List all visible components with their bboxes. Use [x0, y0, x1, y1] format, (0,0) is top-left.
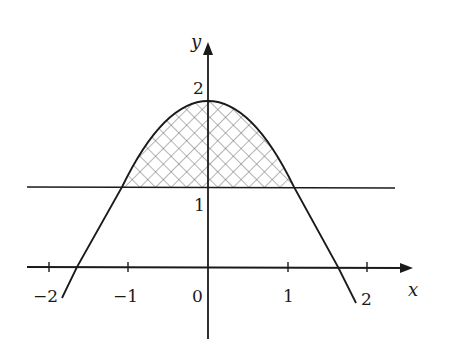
- y-axis-label: y: [190, 31, 202, 52]
- y-axis-arrow-icon: [203, 42, 213, 55]
- x-tick-label-neg2: −2: [33, 286, 58, 306]
- shaded-region: [110, 95, 310, 190]
- x-tick-label-2: 2: [361, 289, 372, 309]
- y-axis: [203, 42, 213, 339]
- y-tick-label-1: 1: [194, 195, 205, 215]
- origin-label: 0: [192, 286, 203, 306]
- line-y-equals-1: [27, 187, 395, 188]
- math-figure: y x 2 1 0 −2 −1 1 2: [0, 0, 452, 351]
- y-tick-label-2: 2: [193, 78, 204, 98]
- x-axis-label: x: [408, 279, 418, 300]
- x-tick-label-neg1: −1: [113, 286, 138, 306]
- x-axis-arrow-icon: [400, 263, 413, 273]
- x-axis: [27, 262, 413, 273]
- x-tick-label-1: 1: [283, 286, 294, 306]
